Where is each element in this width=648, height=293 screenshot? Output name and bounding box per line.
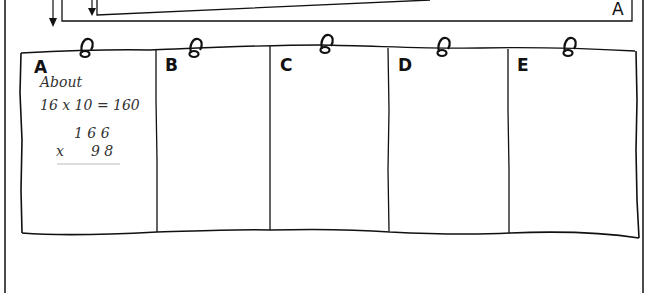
binder-ring-icon [564, 38, 576, 56]
multiplier: 9 8 [91, 144, 113, 158]
multiplier-sign: x [56, 144, 64, 158]
sheet-bottom-edge [22, 229, 639, 238]
binder-ring-icon [321, 35, 333, 53]
top-panel-label: A [612, 0, 624, 19]
multiplicand: 1 6 6 [74, 126, 110, 140]
column-divider [156, 50, 157, 232]
column-divider [508, 49, 509, 233]
column-divider [388, 48, 389, 231]
column-label-e: E [517, 57, 529, 74]
column-label-c: C [280, 57, 292, 74]
arrow-down-icon [88, 0, 96, 16]
sheet-left-edge [20, 53, 22, 233]
column-label-b: B [165, 57, 178, 74]
about-heading: About [40, 75, 82, 89]
top-panel-inner-sheet [97, 0, 430, 15]
binder-ring-icon [438, 38, 450, 56]
sheet-right-edge [636, 51, 639, 238]
estimate-equation: 16 x 10 = 160 [40, 98, 140, 112]
column-label-d: D [398, 57, 412, 74]
arrow-down-icon [49, 0, 57, 27]
binder-ring-icon [81, 39, 93, 57]
